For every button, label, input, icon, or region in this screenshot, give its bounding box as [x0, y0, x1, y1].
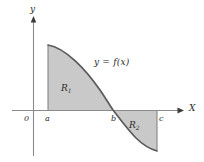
x-axis-label: X	[189, 104, 195, 113]
tick-label-a: a	[45, 115, 50, 123]
origin-label: 0	[24, 115, 29, 123]
x-axis-arrowhead	[178, 108, 185, 114]
graph-canvas	[0, 0, 204, 162]
function-label: y = f(x)	[94, 58, 129, 67]
region-2-label: R2	[129, 121, 140, 130]
region-1-fill	[48, 45, 113, 110]
region-2-fill	[113, 110, 157, 151]
region-2-letter: R	[129, 120, 136, 130]
y-axis-arrowhead	[31, 16, 37, 23]
region-1-label: R1	[61, 84, 72, 93]
region-1-letter: R	[61, 83, 68, 93]
y-axis-label: y	[30, 5, 35, 14]
tick-label-b: b	[111, 115, 116, 123]
tick-label-c: c	[159, 115, 163, 123]
region-1-subscript: 1	[68, 87, 72, 94]
figure-container: y X 0 a b c y = f(x) R1 R2	[0, 0, 204, 162]
region-2-subscript: 2	[136, 124, 140, 131]
